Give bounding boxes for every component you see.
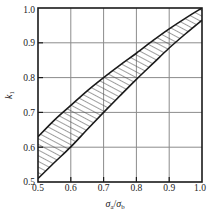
x-tick-label: 0.6 [65, 183, 77, 193]
y-tick-label: 0.8 [23, 73, 35, 83]
y-tick-label: 0.9 [23, 38, 35, 48]
y-axis-title-subscript: 1 [8, 91, 15, 94]
x-tick-label: 0.9 [163, 183, 175, 193]
y-axis-title: k1 [3, 91, 15, 99]
svg-text:σa/σb: σa/σb [105, 198, 125, 210]
chart-plot: 0.5 0.6 0.7 0.8 0.9 1.0 0.5 0.6 0.7 0.8 … [0, 0, 216, 216]
svg-text:k1: k1 [3, 91, 15, 99]
y-tick-label: 0.5 [23, 177, 35, 187]
x-tick-label: 1.0 [194, 183, 206, 193]
y-tick-label: 0.6 [23, 143, 35, 153]
x-axis-tick-labels: 0.5 0.6 0.7 0.8 0.9 1.0 [32, 183, 206, 193]
y-tick-label: 1.0 [23, 5, 35, 15]
x-tick-label: 0.8 [130, 183, 142, 193]
chart-figure: 0.5 0.6 0.7 0.8 0.9 1.0 0.5 0.6 0.7 0.8 … [0, 0, 216, 216]
x-axis-title: σa/σb [105, 198, 125, 210]
y-tick-label: 0.7 [23, 108, 35, 118]
y-axis-tick-labels: 0.5 0.6 0.7 0.8 0.9 1.0 [23, 5, 35, 188]
x-tick-label: 0.7 [98, 183, 110, 193]
x-axis-title-sub2: b [121, 203, 125, 210]
